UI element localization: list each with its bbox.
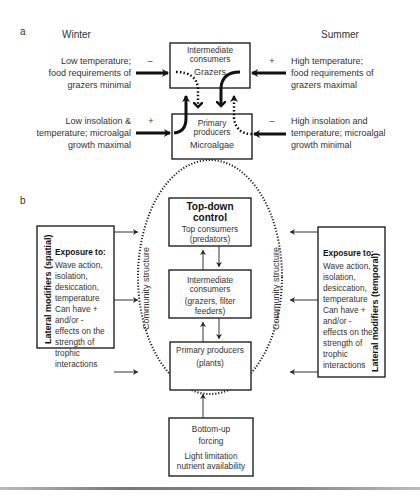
left-line-2: isolation, <box>55 271 88 281</box>
left-line-5: Can have + <box>55 304 98 314</box>
lateral-modifiers-temporal-title: Lateral modifiers (temporal) <box>370 253 380 372</box>
summer-top-sign: + <box>269 56 274 66</box>
winter-title: Winter <box>62 29 92 40</box>
bottom-rule-divider <box>0 487 420 490</box>
summer-title: Summer <box>321 29 359 40</box>
summer-top-line-1: High temperature; <box>291 56 363 66</box>
top-down-line-2: control <box>193 212 227 223</box>
light-limitation-label: Light limitation <box>184 451 237 461</box>
right-line-3: desiccation, <box>323 283 367 293</box>
right-line-2: isolation, <box>323 272 356 282</box>
intermediate-box-a-line-2: consumers <box>190 54 231 64</box>
right-line-6: and/or - <box>323 316 352 326</box>
left-line-10: interactions <box>55 359 97 369</box>
left-line-3: desiccation, <box>55 282 99 292</box>
predators-label: (predators) <box>190 234 231 244</box>
winter-bottom-line-1: Low insolation & <box>65 116 131 126</box>
winter-top-line-1: Low temperature; <box>61 56 131 66</box>
panel-a-label: a <box>20 26 26 37</box>
summer-top-line-2: food requirements of <box>291 68 374 78</box>
community-structure-label-left: Community structure <box>141 247 151 330</box>
right-line-8: strength of <box>323 338 363 348</box>
right-line-7: effects on the <box>323 327 373 337</box>
bottom-up-line-2: forcing <box>199 436 224 446</box>
food-web-diagram: a Winter Summer Low temperature; food re… <box>0 0 420 496</box>
primary-box-a-line-2: producers <box>194 127 231 137</box>
summer-bottom-sign: – <box>269 116 274 126</box>
winter-top-line-2: food requirements of <box>48 68 131 78</box>
grazers-label: Grazers <box>194 67 227 77</box>
middle-line-2: consumers <box>190 284 231 294</box>
left-line-7: effects on the <box>55 326 105 336</box>
winter-bottom-line-3: growth maximal <box>68 140 131 150</box>
winter-bottom-line-2: temperature; microalgal <box>36 128 131 138</box>
lateral-modifiers-spatial-title: Lateral modifiers (spatial) <box>43 234 53 344</box>
left-line-4: temperature <box>55 293 100 303</box>
right-line-9: trophic <box>323 349 348 359</box>
top-down-line-1: Top-down <box>186 201 233 212</box>
left-line-8: strength of <box>55 337 95 347</box>
panel-b: b Community structure Community structur… <box>20 160 385 476</box>
right-line-4: temperature <box>323 294 368 304</box>
top-consumers-label: Top consumers <box>182 224 238 234</box>
winter-top-line-3: grazers minimal <box>67 80 131 90</box>
nutrient-availability-label: nutrient availability <box>177 461 246 471</box>
right-line-5: Can have + <box>323 305 366 315</box>
left-line-9: trophic <box>55 348 80 358</box>
primary-b-line-2: (plants) <box>196 358 224 368</box>
bottom-up-line-1: Bottom-up <box>192 424 231 434</box>
summer-bottom-line-1: High insolation and <box>291 116 368 126</box>
community-structure-label-right: Community structure <box>271 247 281 330</box>
left-line-6: and/or - <box>55 315 84 325</box>
primary-b-line-1: Primary producers <box>176 345 244 355</box>
panel-b-label: b <box>20 195 26 206</box>
left-exposure-heading: Exposure to: <box>55 247 106 257</box>
middle-sub-1: (grazers, filter <box>185 296 236 306</box>
right-line-10: interactions <box>323 360 365 370</box>
summer-bottom-line-3: growth minimal <box>291 140 352 150</box>
microalgae-label: Microalgae <box>190 140 234 150</box>
right-line-1: Wave action, <box>323 261 371 271</box>
summer-bottom-line-2: temperature; microalgal <box>291 128 386 138</box>
middle-sub-2: feeders) <box>195 306 226 316</box>
right-exposure-heading: Exposure to: <box>323 248 374 258</box>
panel-a: a Winter Summer Low temperature; food re… <box>20 26 386 159</box>
left-line-1: Wave action, <box>55 260 103 270</box>
winter-bottom-sign: + <box>148 116 153 126</box>
summer-top-line-3: grazers maximal <box>291 80 357 90</box>
winter-top-sign: – <box>147 56 152 66</box>
